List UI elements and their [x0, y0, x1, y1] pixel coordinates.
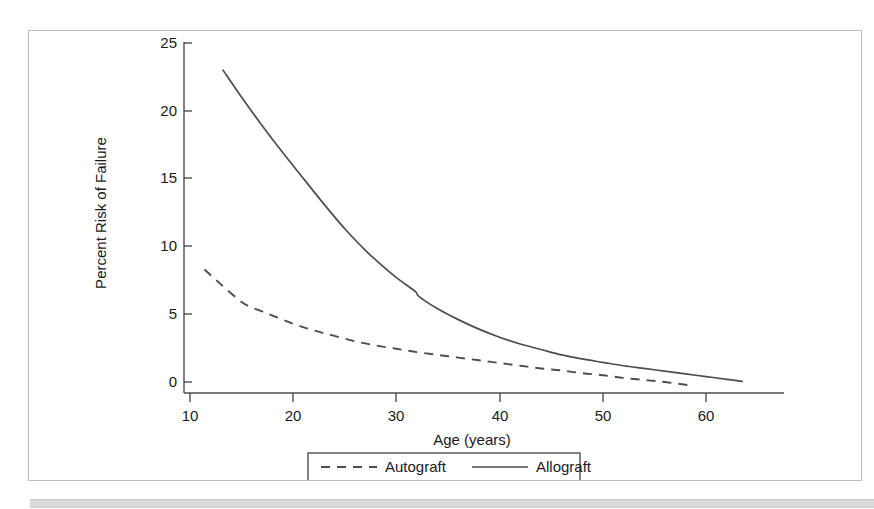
x-tick-label-40: 40: [492, 407, 509, 424]
y-axis-ticks: [184, 43, 192, 382]
series-line-allograft: [223, 70, 742, 381]
y-tick-label-10: 10: [160, 237, 177, 254]
y-tick-label-20: 20: [160, 102, 177, 119]
legend-label-autograft: Autograft: [385, 458, 447, 475]
y-axis-title: Percent Risk of Failure: [92, 137, 109, 289]
series-line-autograft: [204, 269, 690, 385]
x-axis-title: Age (years): [433, 431, 511, 448]
legend-label-allograft: Allograft: [536, 458, 592, 475]
y-tick-label-15: 15: [160, 169, 177, 186]
x-tick-label-60: 60: [698, 407, 715, 424]
y-tick-label-0: 0: [169, 373, 177, 390]
x-tick-label-50: 50: [595, 407, 612, 424]
page-footer-band: [30, 499, 874, 508]
x-tick-label-30: 30: [388, 407, 405, 424]
y-tick-label-5: 5: [169, 305, 177, 322]
figure-root: 25 20 15 10 5 0 10 20 30 40 50 60 Ag: [0, 0, 874, 509]
figure-frame: 25 20 15 10 5 0 10 20 30 40 50 60 Ag: [28, 30, 862, 481]
x-axis-ticks: [190, 393, 706, 402]
chart-legend[interactable]: Autograft Allograft: [308, 453, 592, 480]
x-tick-label-20: 20: [285, 407, 302, 424]
y-tick-label-25: 25: [160, 34, 177, 51]
chart-plot-area: 25 20 15 10 5 0 10 20 30 40 50 60 Ag: [29, 31, 861, 480]
x-tick-label-10: 10: [182, 407, 199, 424]
